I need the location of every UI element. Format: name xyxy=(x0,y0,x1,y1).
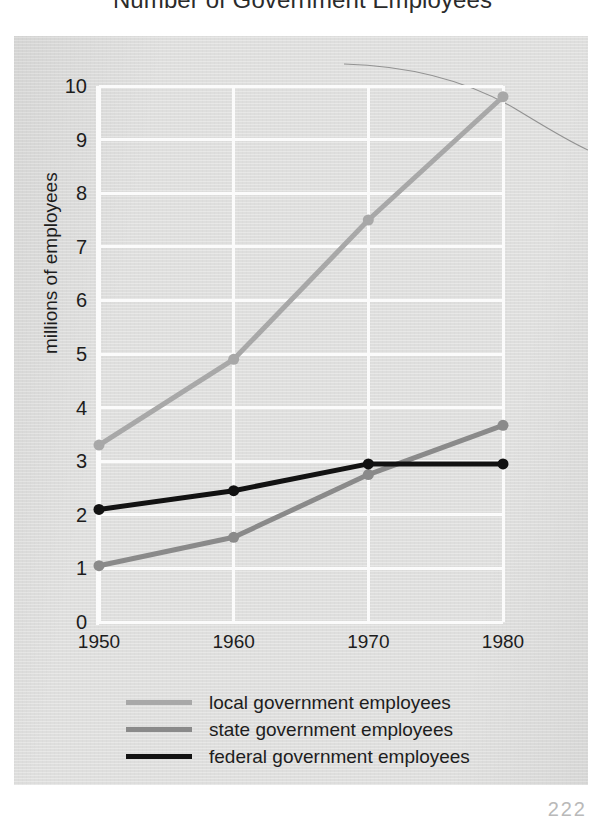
y-tick-label: 7 xyxy=(76,235,87,258)
data-point xyxy=(498,420,509,431)
y-tick-label: 3 xyxy=(76,450,87,473)
legend-label: local government employees xyxy=(209,692,451,714)
legend-swatch xyxy=(126,754,192,759)
legend-item: local government employees xyxy=(126,689,470,716)
legend-label: state government employees xyxy=(209,719,453,741)
y-tick-label: 2 xyxy=(76,503,87,526)
chart-panel: millions of employees 109876543210 19501… xyxy=(14,36,588,785)
data-point xyxy=(363,458,374,469)
data-point xyxy=(228,485,239,496)
page-number: 222 xyxy=(548,798,587,820)
x-tick-label: 1960 xyxy=(213,631,255,653)
data-point xyxy=(228,354,239,365)
data-series xyxy=(99,86,503,622)
page-title: Number of Government Employees xyxy=(0,0,605,14)
data-point xyxy=(94,560,105,571)
y-tick-label: 10 xyxy=(65,75,87,98)
chart-legend: local government employeesstate governme… xyxy=(126,689,470,770)
legend-item: state government employees xyxy=(126,716,470,743)
data-point xyxy=(94,440,105,451)
legend-swatch xyxy=(126,700,192,705)
legend-item: federal government employees xyxy=(126,743,470,770)
data-point xyxy=(228,532,239,543)
data-point xyxy=(94,504,105,515)
series-line xyxy=(99,425,503,565)
x-tick-label: 1950 xyxy=(78,631,120,653)
y-tick-label: 5 xyxy=(76,343,87,366)
series-line xyxy=(99,464,503,510)
page-title-text: Number of Government Employees xyxy=(0,0,605,14)
data-point xyxy=(498,458,509,469)
y-tick-label: 1 xyxy=(76,557,87,580)
y-tick-label: 8 xyxy=(76,182,87,205)
data-point xyxy=(363,215,374,226)
y-tick-label: 4 xyxy=(76,396,87,419)
y-axis-label: millions of employees xyxy=(40,172,62,354)
x-tick-label: 1970 xyxy=(347,631,389,653)
y-tick-label: 6 xyxy=(76,289,87,312)
series-line xyxy=(99,97,503,445)
data-point xyxy=(498,91,509,102)
legend-label: federal government employees xyxy=(209,746,470,768)
x-tick-label: 1980 xyxy=(482,631,524,653)
legend-swatch xyxy=(126,727,192,732)
y-tick-label: 9 xyxy=(76,128,87,151)
plot-area: 109876543210 1950196019701980 xyxy=(99,86,503,622)
data-point xyxy=(363,469,374,480)
